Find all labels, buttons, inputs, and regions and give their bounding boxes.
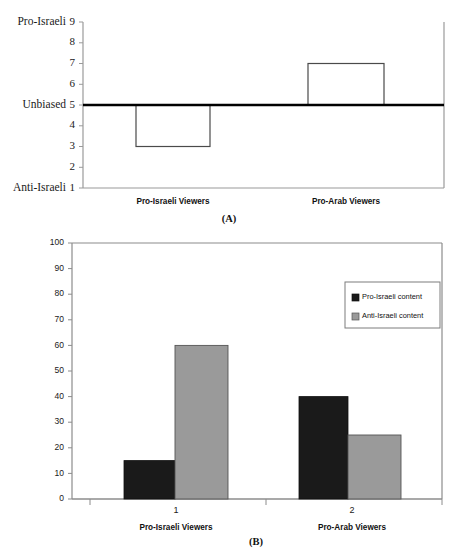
panel-b-legend: Pro-Israeli content Anti-Israeli content <box>345 282 440 328</box>
panel-b-category-label-1: Pro-Israeli Viewers <box>139 523 213 532</box>
panel-a-chart: 9 8 7 6 5 4 3 2 1 Pro-Israeli Unbiased A… <box>0 0 455 230</box>
panel-b-ytick-90: 90 <box>55 263 65 273</box>
panel-b-ytick-30: 30 <box>55 416 65 426</box>
panel-b-ytick-60: 60 <box>55 340 65 350</box>
panel-b-svg: 100 90 80 70 60 50 40 30 20 10 0 1 2 Pro… <box>0 230 455 551</box>
panel-b-bar-g1-pro-israeli-content <box>124 461 175 499</box>
panel-b-x-ticks <box>90 499 442 505</box>
panel-b-ytick-50: 50 <box>55 365 65 375</box>
panel-a-ytick-2: 2 <box>70 160 76 172</box>
panel-a-ytick-1: 1 <box>70 181 76 193</box>
panel-a-anchor-anti-israeli: Anti-Israeli <box>13 181 66 193</box>
panel-b-ytick-40: 40 <box>55 391 65 401</box>
panel-a-anchor-pro-israeli: Pro-Israeli <box>17 15 66 27</box>
panel-a-category-label-1: Pro-Israeli Viewers <box>136 197 210 206</box>
panel-a-caption: (A) <box>222 213 237 225</box>
panel-a-bar-pro-arab-viewers <box>308 64 384 106</box>
panel-a-ytick-4: 4 <box>70 118 76 130</box>
panel-b-bar-g2-anti-israeli-content <box>348 435 401 499</box>
legend-label-anti-israeli-content: Anti-Israeli content <box>362 311 423 320</box>
panel-a-ytick-7: 7 <box>70 56 76 68</box>
panel-a-category-label-2: Pro-Arab Viewers <box>312 197 381 206</box>
panel-b-ytick-0: 0 <box>59 493 64 503</box>
legend-swatch-anti-israeli-content-icon <box>352 313 359 320</box>
panel-b-xtick-1: 1 <box>173 505 178 515</box>
panel-b-caption: (B) <box>249 536 264 548</box>
panel-a-bar-pro-israeli-viewers <box>136 105 210 147</box>
panel-a-ytick-9: 9 <box>70 15 76 27</box>
legend-label-pro-israeli-content: Pro-Israeli content <box>362 292 422 301</box>
legend-swatch-pro-israeli-content-icon <box>352 294 359 301</box>
panel-b-ytick-100: 100 <box>50 237 64 247</box>
panel-b-bar-g1-anti-israeli-content <box>175 345 228 499</box>
panel-b-bar-g2-pro-israeli-content <box>299 397 348 499</box>
panel-a-svg: 9 8 7 6 5 4 3 2 1 Pro-Israeli Unbiased A… <box>0 0 455 230</box>
panel-a-ytick-3: 3 <box>70 139 76 151</box>
panel-b-category-label-2: Pro-Arab Viewers <box>318 523 387 532</box>
panel-b-xtick-2: 2 <box>349 505 354 515</box>
panel-b-ytick-70: 70 <box>55 314 65 324</box>
panel-a-ytick-5: 5 <box>70 98 76 110</box>
legend-box <box>345 282 440 328</box>
panel-b-ytick-20: 20 <box>55 442 65 452</box>
panel-a-anchor-unbiased: Unbiased <box>23 98 67 110</box>
panel-b-ytick-80: 80 <box>55 288 65 298</box>
panel-a-ytick-6: 6 <box>70 77 76 89</box>
panel-b-chart: 100 90 80 70 60 50 40 30 20 10 0 1 2 Pro… <box>0 230 455 551</box>
panel-a-ytick-8: 8 <box>70 35 76 47</box>
panel-b-ytick-10: 10 <box>55 468 65 478</box>
